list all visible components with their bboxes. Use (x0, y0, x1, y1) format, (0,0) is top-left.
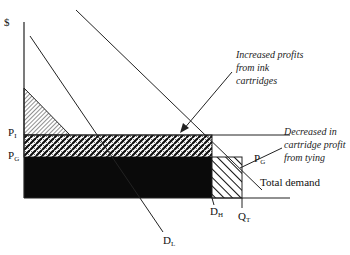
price-label-pg: PG (8, 149, 19, 165)
base-profit-region (24, 157, 212, 198)
annotation-line: from ink (236, 61, 303, 74)
annotation-line: Decreased in (284, 125, 346, 138)
label-sub: H (218, 211, 223, 219)
total-demand-label: Total demand (260, 176, 320, 188)
quantity-label-qt: QT (238, 210, 250, 226)
label-sub: G (260, 158, 265, 166)
price-label-pg-right: PG (254, 152, 265, 168)
annotation-line: cartridge profit (284, 138, 346, 151)
decreased-profit-region (212, 157, 242, 198)
label-main: D (210, 205, 218, 217)
annotation-line: Increased profits (236, 48, 303, 61)
surplus-triangle (24, 88, 70, 135)
label-sub: T (246, 216, 250, 224)
label-main: Q (238, 210, 246, 222)
increased-profits-arrow (183, 72, 232, 130)
increased-profits-annotation: Increased profits from ink cartridges (236, 48, 303, 87)
quantity-label-dh: DH (210, 205, 223, 221)
label-sub: L (171, 240, 175, 248)
dh-tick (212, 198, 214, 205)
label-main: D (163, 234, 171, 246)
label-sub: G (14, 155, 19, 163)
decreased-profit-annotation: Decreased in cartridge profit from tying (284, 125, 346, 164)
price-label-pi: PI (8, 126, 16, 142)
y-axis-label: $ (4, 16, 10, 28)
annotation-line: from tying (284, 151, 346, 164)
label-sub: I (14, 132, 16, 140)
curve-label-dl: DL (163, 234, 175, 250)
annotation-line: cartridges (236, 74, 303, 87)
increased-profits-region (24, 135, 212, 157)
